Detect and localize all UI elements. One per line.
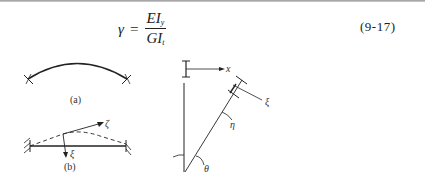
- figure-c-xi-label: ξ: [265, 96, 270, 108]
- figure-a-curved-beam: [24, 64, 131, 85]
- figure-c-eta-label: η: [230, 119, 235, 130]
- figure-a-caption: (a): [70, 94, 81, 106]
- figure-c-geometry: [173, 61, 262, 172]
- figure-b-xi-label: ξ: [70, 148, 75, 160]
- figure-c-theta-label: θ: [204, 163, 209, 174]
- figure-b-straight-beam: [24, 122, 131, 158]
- figure-b-zeta-label: ζ: [105, 118, 110, 130]
- figure-b-caption: (b): [64, 161, 76, 173]
- figure-c-x-label: x: [225, 63, 231, 74]
- figure-diagrams: (a) ζ ξ (b) x ξ η θ: [0, 0, 425, 190]
